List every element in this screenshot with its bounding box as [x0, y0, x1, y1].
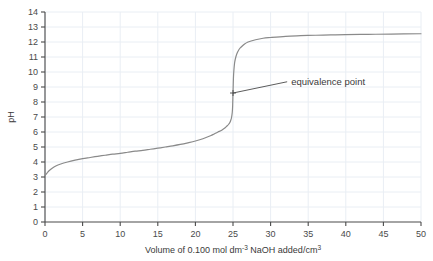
x-axis-title-text: NaOH added/cm — [248, 245, 318, 255]
x-tick-label: 0 — [42, 229, 47, 239]
chart-canvas: 0123456789101112131405101520253035404550… — [0, 0, 433, 261]
y-tick-label: 0 — [33, 217, 38, 227]
x-tick-label: 15 — [153, 229, 163, 239]
y-axis-ticks: 01234567891011121314 — [28, 7, 45, 227]
x-tick-label: 45 — [378, 229, 388, 239]
y-tick-label: 2 — [33, 187, 38, 197]
y-tick-label: 10 — [28, 67, 38, 77]
x-tick-label: 35 — [303, 229, 313, 239]
x-tick-label: 30 — [266, 229, 276, 239]
x-axis-ticks: 05101520253035404550 — [42, 222, 426, 239]
x-axis-title-superscript: 3 — [317, 244, 321, 251]
y-tick-label: 4 — [33, 157, 38, 167]
y-tick-label: 12 — [28, 37, 38, 47]
y-tick-label: 13 — [28, 22, 38, 32]
x-tick-label: 10 — [115, 229, 125, 239]
x-tick-label: 40 — [341, 229, 351, 239]
x-tick-label: 5 — [80, 229, 85, 239]
gridlines — [45, 12, 421, 222]
annotation-equivalence-point: equivalence point — [230, 76, 365, 96]
y-tick-label: 1 — [33, 202, 38, 212]
x-axis-title-text: Volume of 0.100 mol dm — [145, 245, 242, 255]
x-tick-label: 20 — [190, 229, 200, 239]
y-axis-title: pH — [6, 111, 16, 123]
y-tick-label: 3 — [33, 172, 38, 182]
annotation-label: equivalence point — [291, 76, 365, 87]
x-tick-label: 50 — [416, 229, 426, 239]
y-tick-label: 6 — [33, 127, 38, 137]
titration-chart: 0123456789101112131405101520253035404550… — [0, 0, 433, 261]
x-axis-title: Volume of 0.100 mol dm-3 NaOH added/cm3 — [145, 244, 321, 255]
y-tick-label: 11 — [29, 52, 38, 62]
y-tick-label: 14 — [28, 7, 38, 17]
y-tick-label: 7 — [33, 112, 38, 122]
y-tick-label: 8 — [33, 97, 38, 107]
y-tick-label: 5 — [33, 142, 38, 152]
y-tick-label: 9 — [33, 82, 38, 92]
x-tick-label: 25 — [228, 229, 238, 239]
